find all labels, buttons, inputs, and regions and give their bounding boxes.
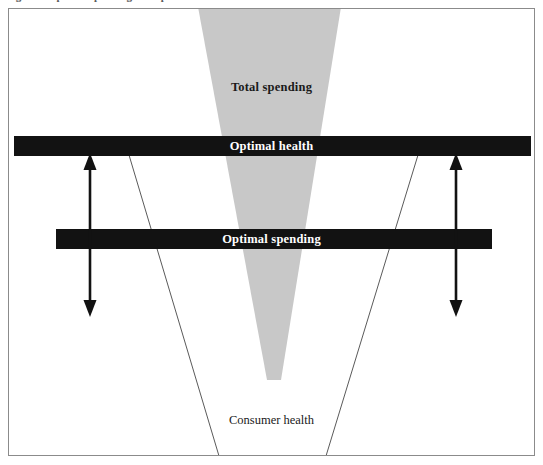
figure-caption-remnant: Figure 1 Optimal spending and optimal he…: [0, 0, 543, 8]
consumer-health-label: Consumer health: [9, 413, 534, 428]
optimal-spending-label: Optimal spending: [9, 232, 534, 247]
figure-caption-text: Figure 1 Optimal spending and optimal he…: [6, 0, 223, 2]
total-spending-shape: [198, 9, 341, 380]
total-spending-label: Total spending: [9, 80, 534, 95]
optimal-health-label: Optimal health: [9, 139, 534, 154]
figure-frame: Total spending Optimal health Optimal sp…: [8, 8, 535, 456]
